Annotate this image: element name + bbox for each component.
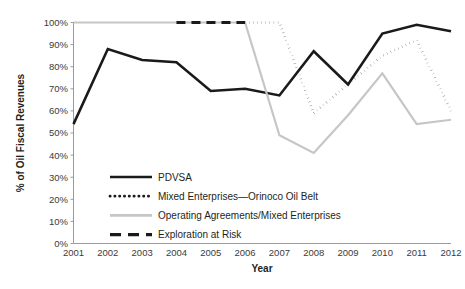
y-axis-tick-label: 70% — [49, 83, 69, 94]
legend-label-2: Mixed Enterprises—Orinoco Oil Belt — [158, 191, 318, 202]
y-axis-title: % of Oil Fiscal Revenues — [15, 73, 26, 192]
legend-label-3: Operating Agreements/Mixed Enterprises — [158, 210, 341, 221]
x-axis-title: Year — [251, 263, 272, 274]
y-axis-tick-label: 30% — [49, 172, 69, 183]
y-axis-tick-labels: 100%90%80%70%60%50%40%30%20%10%0% — [44, 17, 74, 249]
x-axis-tick-label: 2007 — [269, 247, 290, 258]
y-axis-tick-label: 50% — [49, 127, 69, 138]
x-axis-tick-label: 2002 — [97, 247, 118, 258]
legend-label-1: PDVSA — [158, 172, 192, 183]
y-axis-tick-label: 20% — [49, 194, 69, 205]
x-axis-tick-label: 2003 — [132, 247, 153, 258]
series-line-2 — [245, 23, 451, 114]
x-axis-tick-labels: 2001200220032004200520062007200820092010… — [63, 247, 462, 258]
x-axis-tick-label: 2010 — [372, 247, 393, 258]
x-axis-tick-label: 2001 — [63, 247, 84, 258]
x-axis-tick-label: 2011 — [406, 247, 426, 258]
x-axis-tick-label: 2006 — [235, 247, 256, 258]
series-line-3 — [74, 23, 452, 153]
y-axis-tick-label: 10% — [49, 216, 69, 227]
y-axis-title-group: % of Oil Fiscal Revenues — [15, 73, 26, 192]
x-axis-tick-label: 2004 — [166, 247, 187, 258]
series-line-1 — [74, 25, 452, 124]
legend-label-4: Exploration at Risk — [158, 229, 242, 240]
x-axis-tick-label: 2005 — [200, 247, 221, 258]
x-axis-tick-label: 2008 — [303, 247, 324, 258]
y-axis-tick-label: 80% — [49, 61, 69, 72]
series-lines-group — [74, 23, 452, 153]
line-chart: % of Oil Fiscal Revenues 100%90%80%70%60… — [0, 0, 465, 289]
x-axis-tick-label: 2012 — [440, 247, 461, 258]
y-axis-tick-label: 90% — [49, 39, 69, 50]
y-axis-tick-label: 40% — [49, 150, 69, 161]
x-axis-tick-label: 2009 — [337, 247, 358, 258]
chart-container: % of Oil Fiscal Revenues 100%90%80%70%60… — [0, 0, 465, 289]
y-axis-tick-label: 100% — [44, 17, 69, 28]
y-axis-tick-label: 60% — [49, 105, 69, 116]
chart-legend: PDVSAMixed Enterprises—Orinoco Oil BeltO… — [110, 172, 341, 241]
